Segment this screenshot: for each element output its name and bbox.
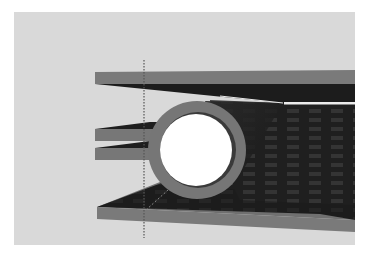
contact-highlight-right (284, 102, 355, 105)
tube-inner-bore (160, 114, 232, 186)
tube-plate-diagram (0, 0, 365, 255)
top-plate-edge (95, 70, 355, 84)
fin-lower-edge (95, 148, 157, 160)
diagram-stage (0, 0, 365, 255)
fin-upper-edge (95, 129, 157, 141)
